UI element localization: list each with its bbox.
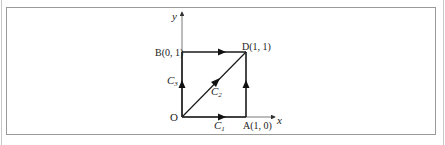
arrow-up-icon [179, 80, 186, 88]
point-b-label: B(0, 1) [155, 47, 183, 59]
y-axis-label: y [171, 10, 177, 22]
point-d-label: D(1, 1) [242, 41, 271, 53]
path-c1-label: C1 [214, 119, 225, 133]
path-diagram: y x O A(1, 0) B(0, 1) D(1, 1) C1 C2 C3 [0, 0, 445, 145]
point-a-label: A(1, 0) [243, 120, 272, 132]
x-axis-label: x [276, 114, 282, 126]
arrow-right-icon [218, 49, 226, 56]
path-c2-label: C2 [211, 85, 222, 99]
arrow-up-icon [243, 80, 250, 88]
origin-label: O [170, 111, 178, 123]
path-c3-label: C3 [167, 74, 178, 88]
